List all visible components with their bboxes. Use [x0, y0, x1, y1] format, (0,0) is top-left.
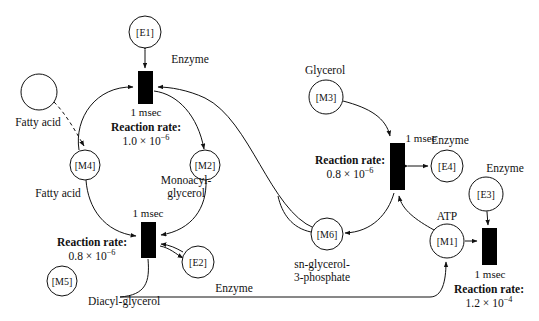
arc-m1-to-t3	[399, 196, 434, 230]
label-sn-glycerol-line1: sn-glycerol-	[294, 258, 350, 270]
transition-t3[interactable]	[390, 143, 405, 190]
label-diacyl-glycerol: Diacyl-glycerol	[88, 295, 160, 307]
transition-t3-rate-label: Reaction rate:	[315, 154, 385, 166]
label-enzyme-e1: Enzyme	[171, 53, 209, 65]
transition-t1-rate-value: 1.0 × 10−6	[123, 134, 170, 147]
place-label-e4: [E4]	[438, 161, 456, 172]
transition-t1-rate-label: Reaction rate:	[111, 121, 181, 133]
label-fatty-acid-m4: Fatty acid	[35, 187, 81, 199]
place-label-e1: [E1]	[136, 27, 154, 38]
label-glycerol: Glycerol	[305, 64, 345, 76]
place-label-e3: [E3]	[477, 189, 495, 200]
transition-t4-rate-value: 1.2 × 10−4	[466, 296, 513, 309]
rate-mantissa-t1: 1.0 × 10	[123, 135, 161, 147]
arc-m3-to-t3	[343, 101, 390, 136]
arc-t3-to-m6	[345, 193, 394, 233]
rate-exponent-t1: −6	[161, 133, 170, 142]
label-enzyme-e4: Enzyme	[431, 134, 469, 146]
transition-t4-delay: 1 msec	[475, 269, 506, 281]
rate-text-t2: Reaction rate:	[57, 236, 127, 248]
arc-e3-to-t4	[487, 212, 488, 225]
rate-mantissa-t4: 1.2 × 10	[466, 297, 504, 309]
rate-text-t4: Reaction rate:	[454, 283, 524, 295]
arc-layer	[54, 50, 488, 297]
label-monoacyl-line2: glycerol	[167, 187, 205, 199]
place-label-m1: [M1]	[437, 236, 458, 247]
rate-mantissa-t3: 0.8 × 10	[327, 168, 365, 180]
label-atp: ATP	[437, 210, 457, 222]
transition-t2-rate-label: Reaction rate:	[57, 236, 127, 248]
place-label-m4: [M4]	[75, 160, 96, 171]
rate-exponent-t3: −6	[365, 166, 374, 175]
place-label-m6: [M6]	[317, 229, 338, 240]
rate-mantissa-t2: 0.8 × 10	[69, 250, 107, 262]
arc-t2-to-m1	[120, 259, 446, 297]
label-enzyme-e3: Enzyme	[486, 162, 524, 174]
transition-t1[interactable]	[138, 71, 153, 104]
arc-m4-to-t2	[86, 180, 136, 236]
transition-t2-delay: 1 msec	[133, 208, 164, 220]
transition-t1-delay: 1 msec	[131, 107, 162, 119]
rate-text-t3: Reaction rate:	[315, 154, 385, 166]
transition-t2-rate-value: 0.8 × 10−6	[69, 249, 116, 262]
label-sn-glycerol-line2: 3-phosphate	[294, 271, 350, 283]
arc-m6-to-t1	[158, 87, 314, 228]
label-monoacyl-line1: Monoacyl-	[161, 174, 211, 186]
label-enzyme-e2: Enzyme	[215, 282, 253, 294]
rate-exponent-t4: −4	[504, 295, 513, 304]
place-label-m3: [M3]	[316, 92, 337, 103]
arc-t2-to-e2	[160, 246, 183, 258]
place-label-m5: [M5]	[52, 276, 73, 287]
place-label-e2: [E2]	[189, 257, 207, 268]
transition-t3-delay: 1 msec	[406, 133, 437, 145]
label-fatty-acid-source: Fatty acid	[15, 116, 61, 128]
transition-t4[interactable]	[482, 228, 497, 265]
rate-text-t1: Reaction rate:	[111, 121, 181, 133]
transition-t4-rate-label: Reaction rate:	[454, 283, 524, 295]
petri-net-diagram: [E1] [M4] [M2] [M5] [E2] [M3] [M6] [E4] …	[0, 0, 539, 321]
transition-t2[interactable]	[141, 222, 156, 258]
place-label-m2: [M2]	[195, 160, 216, 171]
place-fattyacid-source[interactable]	[21, 74, 57, 110]
transition-t3-rate-value: 0.8 × 10−6	[327, 167, 374, 180]
rate-exponent-t2: −6	[107, 248, 116, 257]
